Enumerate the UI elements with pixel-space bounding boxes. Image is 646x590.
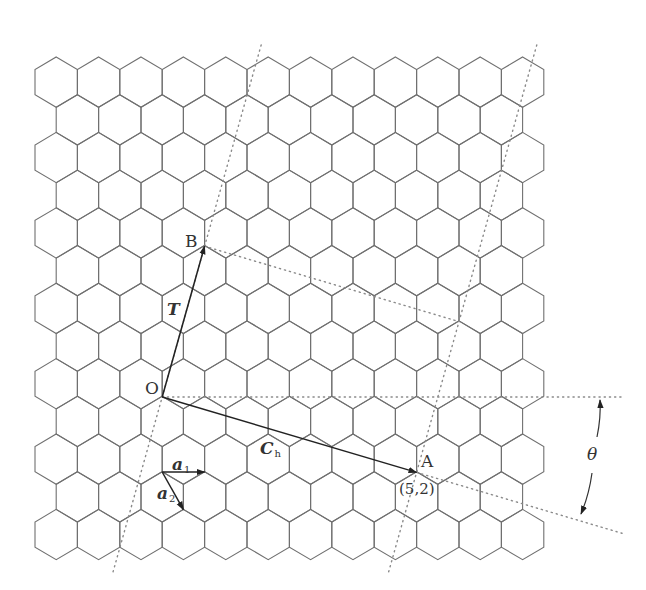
- hexagon-cell: [289, 283, 331, 333]
- hexagon-cell: [289, 208, 331, 258]
- hexagon-cell: [35, 509, 77, 559]
- hexagon-cell: [501, 509, 543, 559]
- hexagon-cell: [183, 95, 225, 145]
- hexagon-cell: [56, 321, 98, 371]
- label-a2-sub: 2: [169, 493, 175, 504]
- point-label-o: O: [145, 380, 159, 397]
- hexagon-cell: [205, 57, 247, 107]
- hexagon-cell: [162, 57, 204, 107]
- label-o-text: O: [145, 378, 159, 398]
- hexagon-cell: [247, 283, 289, 333]
- hexagon-cell: [438, 472, 480, 522]
- hexagon-cell: [374, 132, 416, 182]
- hexagon-cell: [205, 132, 247, 182]
- label-t-text: T: [167, 299, 180, 319]
- chiral-index-text: (5,2): [399, 480, 435, 498]
- hexagon-cell: [99, 321, 141, 371]
- hexagon-cell: [332, 359, 374, 409]
- graphene-lattice-diagram: [0, 0, 646, 590]
- hexagon-cell: [77, 57, 119, 107]
- hexagon-cell: [99, 95, 141, 145]
- hexagon-cell: [374, 57, 416, 107]
- hexagon-cell: [311, 321, 353, 371]
- hexagon-cell: [353, 170, 395, 220]
- hexagon-cell: [268, 321, 310, 371]
- label-b-text: B: [185, 231, 198, 251]
- hexagon-cell: [374, 434, 416, 484]
- hexagon-cell: [56, 396, 98, 446]
- theta-arc-upper-arrow: [597, 400, 600, 437]
- hexagon-cell: [141, 246, 183, 296]
- hexagon-cell: [226, 472, 268, 522]
- hexagon-cell: [417, 57, 459, 107]
- hexagon-cell: [501, 208, 543, 258]
- angle-label-theta: θ: [587, 446, 597, 463]
- hexagon-cell: [162, 132, 204, 182]
- hexagon-cell: [311, 472, 353, 522]
- hexagon-cell: [459, 434, 501, 484]
- hexagon-cell: [205, 359, 247, 409]
- hexagon-cell: [56, 170, 98, 220]
- hexagon-cell: [226, 246, 268, 296]
- hexagon-cell: [289, 509, 331, 559]
- hexagon-cell: [77, 132, 119, 182]
- hexagon-cell: [205, 208, 247, 258]
- hexagon-cell: [77, 509, 119, 559]
- hexagon-cell: [374, 208, 416, 258]
- hexagon-cell: [35, 359, 77, 409]
- hexagon-cell: [120, 434, 162, 484]
- hexagon-cell: [56, 472, 98, 522]
- hexagon-cell: [120, 208, 162, 258]
- hexagon-cell: [332, 283, 374, 333]
- vector-label-ch: Ch: [260, 440, 281, 459]
- label-a-text: A: [421, 451, 433, 471]
- hexagon-cell: [289, 57, 331, 107]
- hexagon-cell: [311, 170, 353, 220]
- hexagon-cell: [77, 434, 119, 484]
- vector-label-t: T: [167, 301, 180, 318]
- hexagon-cell: [35, 132, 77, 182]
- hexagon-cell: [289, 359, 331, 409]
- hexagon-cell: [226, 321, 268, 371]
- hexagon-cell: [374, 359, 416, 409]
- label-ch-sub: h: [275, 448, 281, 459]
- hexagon-cell: [501, 359, 543, 409]
- hexagon-cell: [395, 170, 437, 220]
- hexagon-cell: [438, 396, 480, 446]
- vector-label-a2: a2: [157, 485, 175, 504]
- hexagon-cell: [332, 434, 374, 484]
- hexagon-cell: [247, 132, 289, 182]
- hexagon-cell: [459, 283, 501, 333]
- hexagon-cell: [459, 359, 501, 409]
- hexagon-cell: [417, 509, 459, 559]
- hexagon-cell: [417, 283, 459, 333]
- hexagon-cell: [226, 170, 268, 220]
- hexagon-cell: [183, 246, 225, 296]
- honeycomb-lattice: [35, 57, 544, 560]
- hexagon-cell: [247, 57, 289, 107]
- hexagon-cell: [332, 132, 374, 182]
- theta-text: θ: [587, 444, 597, 464]
- guide-lines: [112, 45, 622, 575]
- vector-label-a1: a1: [172, 456, 190, 475]
- hexagon-cell: [162, 509, 204, 559]
- hexagon-cell: [480, 246, 522, 296]
- hexagon-cell: [332, 57, 374, 107]
- hexagon-cell: [141, 95, 183, 145]
- label-a1-main: a: [172, 454, 183, 474]
- hexagon-cell: [268, 170, 310, 220]
- hexagon-cell: [205, 509, 247, 559]
- hexagon-cell: [353, 321, 395, 371]
- hexagon-cell: [311, 396, 353, 446]
- hexagon-cell: [438, 95, 480, 145]
- hexagon-cell: [459, 57, 501, 107]
- hexagon-cell: [247, 208, 289, 258]
- hexagon-cell: [395, 246, 437, 296]
- hexagon-cell: [311, 246, 353, 296]
- hexagon-cell: [417, 132, 459, 182]
- hexagon-cell: [162, 359, 204, 409]
- hexagon-cell: [459, 509, 501, 559]
- hexagon-cell: [501, 434, 543, 484]
- hexagon-cell: [332, 509, 374, 559]
- hexagon-cell: [268, 472, 310, 522]
